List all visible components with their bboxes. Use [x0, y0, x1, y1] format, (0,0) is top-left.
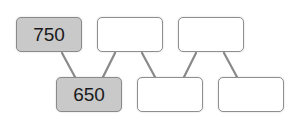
connector-line: [103, 53, 115, 77]
top-box-3[interactable]: [178, 17, 244, 52]
box-value: 750: [33, 24, 65, 46]
connector-line: [224, 53, 237, 77]
connector-line: [184, 53, 196, 77]
box-value: 650: [73, 84, 105, 106]
number-pyramid-diagram: 750 650: [0, 0, 303, 119]
bottom-box-2[interactable]: [137, 77, 203, 112]
connector-line: [62, 53, 75, 77]
connector-line: [142, 53, 155, 77]
bottom-box-3[interactable]: [218, 77, 284, 112]
bottom-box-1: 650: [56, 77, 122, 112]
top-box-2[interactable]: [97, 17, 163, 52]
top-box-1: 750: [16, 17, 82, 52]
